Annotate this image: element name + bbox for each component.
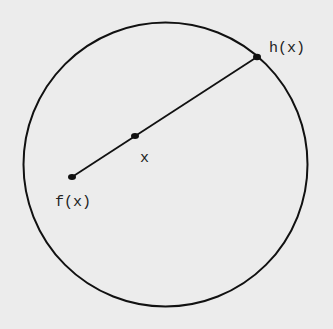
label-hx: h(x) [269,40,305,57]
diagram-canvas: h(x) x f(x) [0,0,333,329]
label-x: x [140,150,149,167]
label-fx: f(x) [55,194,91,211]
point-hx [253,54,261,60]
ray-segment [72,57,257,177]
point-x [131,133,139,139]
boundary-circle [24,23,308,307]
point-fx [68,174,76,180]
